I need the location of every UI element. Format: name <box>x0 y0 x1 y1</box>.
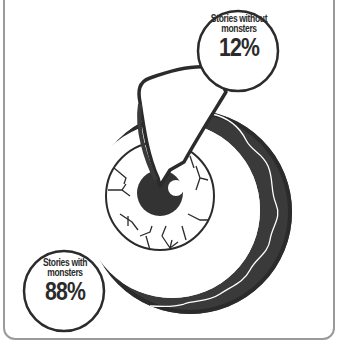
callout-without-monsters: Stories without monsters 12% <box>198 14 280 60</box>
callout-value: 88% <box>30 279 100 304</box>
pupil-highlight <box>168 180 184 196</box>
callout-value: 12% <box>204 35 274 60</box>
callout-with-monsters: Stories with monsters 88% <box>24 258 106 304</box>
